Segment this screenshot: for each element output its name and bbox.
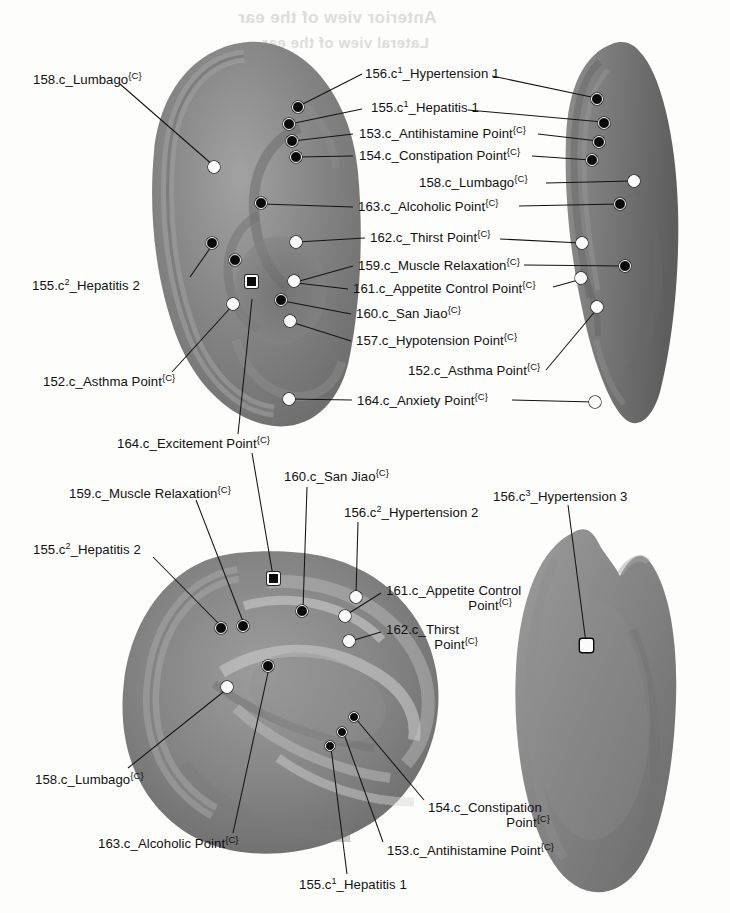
label-tag: {C}: [485, 197, 498, 208]
point-marker-164-excitement-concha[interactable]: [267, 572, 280, 585]
point-marker-155c2-hepatitis2-concha[interactable]: [215, 622, 227, 634]
point-marker-154-constipation-left[interactable]: [290, 151, 302, 163]
label-tag: {C}: [541, 841, 554, 852]
point-marker-155c1-hepatitis1-concha[interactable]: [325, 741, 335, 751]
label-code: 155.c: [33, 542, 66, 557]
leader-line: [291, 322, 351, 341]
point-marker-153-antihistamine-right[interactable]: [593, 136, 605, 148]
leader-line: [538, 134, 598, 141]
point-marker-160-san-jiao-concha[interactable]: [296, 605, 308, 617]
leader-line: [546, 309, 597, 370]
label-tag: {C}: [507, 146, 520, 157]
label-tag: {C}: [225, 834, 238, 845]
label-name: _Hypertension 3: [531, 489, 628, 504]
label-name: _Hepatitis 1: [337, 877, 407, 892]
label-tag: {C}: [465, 635, 478, 646]
label-text: 160.c_San Jiao: [356, 306, 448, 321]
label-160-san-jiao-concha: 160.c_San Jiao{C}: [284, 469, 389, 484]
point-marker-158-lumbago-right[interactable]: [628, 175, 640, 187]
label-152-asthma-point-top-left: 152.c_Asthma Point{C}: [43, 374, 175, 389]
point-marker-161-appetite-concha[interactable]: [339, 610, 351, 622]
point-marker-162-thirst-right[interactable]: [576, 237, 588, 249]
point-marker-164-anxiety-right[interactable]: [589, 396, 601, 408]
point-marker-160-san-jiao-left[interactable]: [275, 294, 287, 306]
label-tag: {C}: [130, 770, 143, 781]
point-marker-164-anxiety-left[interactable]: [283, 393, 295, 405]
label-156c1-hypertension-1: 156.c1_Hypertension 1: [365, 66, 499, 81]
leader-line: [568, 505, 586, 643]
point-marker-158-lumbago-concha[interactable]: [221, 681, 233, 693]
label-name: _Hypertension 1: [403, 66, 500, 81]
label-tag: {C}: [514, 173, 527, 184]
label-text: 164.c_Anxiety Point: [357, 393, 475, 408]
leader-line: [512, 400, 594, 402]
leader-line: [500, 239, 581, 243]
label-155c1-hepatitis-1: 155.c1_Hepatitis 1: [371, 100, 479, 115]
leader-line: [468, 110, 603, 122]
label-text: 157.c_Hypotension Point: [356, 333, 504, 348]
leader-line: [331, 748, 347, 874]
point-marker-159-muscle-relaxation-left[interactable]: [229, 254, 241, 266]
point-marker-156c3-hypertension3-posterior[interactable]: [580, 639, 593, 652]
point-marker-161-appetite-left[interactable]: [288, 275, 300, 287]
leader-line: [262, 204, 353, 207]
leader-line: [252, 453, 273, 576]
leader-line: [196, 500, 244, 624]
point-marker-152-asthma-left[interactable]: [227, 298, 239, 310]
point-marker-156c2-hypertension2-concha[interactable]: [350, 591, 362, 603]
label-164-excitement-point: 164.c_Excitement Point{C}: [117, 436, 270, 451]
label-tag: {C}: [507, 256, 520, 267]
point-marker-153-antihistamine-concha[interactable]: [337, 727, 347, 737]
label-text-line2: Point: [468, 598, 498, 613]
leader-line: [299, 74, 362, 106]
leader-line: [297, 283, 348, 289]
point-marker-154-constipation-right[interactable]: [586, 154, 598, 166]
label-159-muscle-relaxation-concha: 159.c_Muscle Relaxation{C}: [69, 486, 231, 501]
leader-line: [190, 244, 213, 277]
leader-line: [303, 487, 307, 609]
leader-line: [293, 134, 353, 141]
point-marker-156c1-hypertension1-right[interactable]: [591, 93, 603, 105]
label-tag: {C}: [475, 391, 488, 402]
label-tag: {C}: [504, 331, 517, 342]
leader-line: [297, 156, 353, 157]
point-marker-155c2-hepatitis2-left[interactable]: [206, 237, 218, 249]
leader-line: [519, 204, 619, 206]
label-text: 154.c_Constipation: [428, 800, 542, 815]
point-marker-153-antihistamine-left[interactable]: [286, 135, 298, 147]
label-tag: {C}: [499, 596, 512, 607]
point-marker-163-alcoholic-right[interactable]: [614, 198, 626, 210]
point-marker-155c1-hepatitis1-left[interactable]: [283, 118, 295, 130]
label-text: 154.c_Constipation Point: [359, 148, 507, 163]
point-marker-159-muscle-relaxation-concha[interactable]: [237, 620, 249, 632]
point-marker-155c1-hepatitis1-right[interactable]: [598, 117, 610, 129]
point-marker-152-asthma-right[interactable]: [591, 301, 603, 313]
leader-line: [238, 299, 252, 434]
point-marker-162-thirst-concha[interactable]: [343, 635, 355, 647]
label-code: 155.c: [371, 100, 404, 115]
label-tag: {C}: [218, 484, 231, 495]
point-marker-164-excitement-left[interactable]: [245, 275, 258, 288]
point-marker-163-alcoholic-concha[interactable]: [262, 660, 274, 672]
leader-line: [120, 84, 214, 166]
label-text: 158.c_Lumbago: [33, 72, 128, 87]
label-code: 155.c: [32, 278, 65, 293]
point-marker-163-alcoholic-left[interactable]: [255, 197, 267, 209]
leader-line: [532, 156, 591, 160]
label-163-alcoholic-point-top: 163.c_Alcoholic Point{C}: [358, 199, 499, 214]
leader-line: [283, 301, 351, 314]
point-marker-159-muscle-relaxation-right[interactable]: [619, 260, 631, 272]
point-marker-156c1-hypertension1-left[interactable]: [292, 101, 304, 113]
label-code: 156.c: [493, 489, 526, 504]
point-marker-162-thirst-left[interactable]: [290, 236, 302, 248]
point-marker-161-appetite-right[interactable]: [575, 272, 587, 284]
label-name: _Hepatitis 1: [409, 100, 479, 115]
label-text: 160.c_San Jiao: [284, 469, 376, 484]
point-marker-157-hypotension-left[interactable]: [284, 315, 296, 327]
label-text: 164.c_Excitement Point: [117, 436, 257, 451]
label-code: 156.c: [344, 505, 377, 520]
label-text: 153.c_Antihistamine Point: [387, 843, 541, 858]
point-marker-154-constipation-concha[interactable]: [349, 712, 359, 722]
point-marker-158-lumbago-left[interactable]: [208, 161, 220, 173]
label-159-muscle-relaxation-top: 159.c_Muscle Relaxation{C}: [358, 258, 520, 273]
